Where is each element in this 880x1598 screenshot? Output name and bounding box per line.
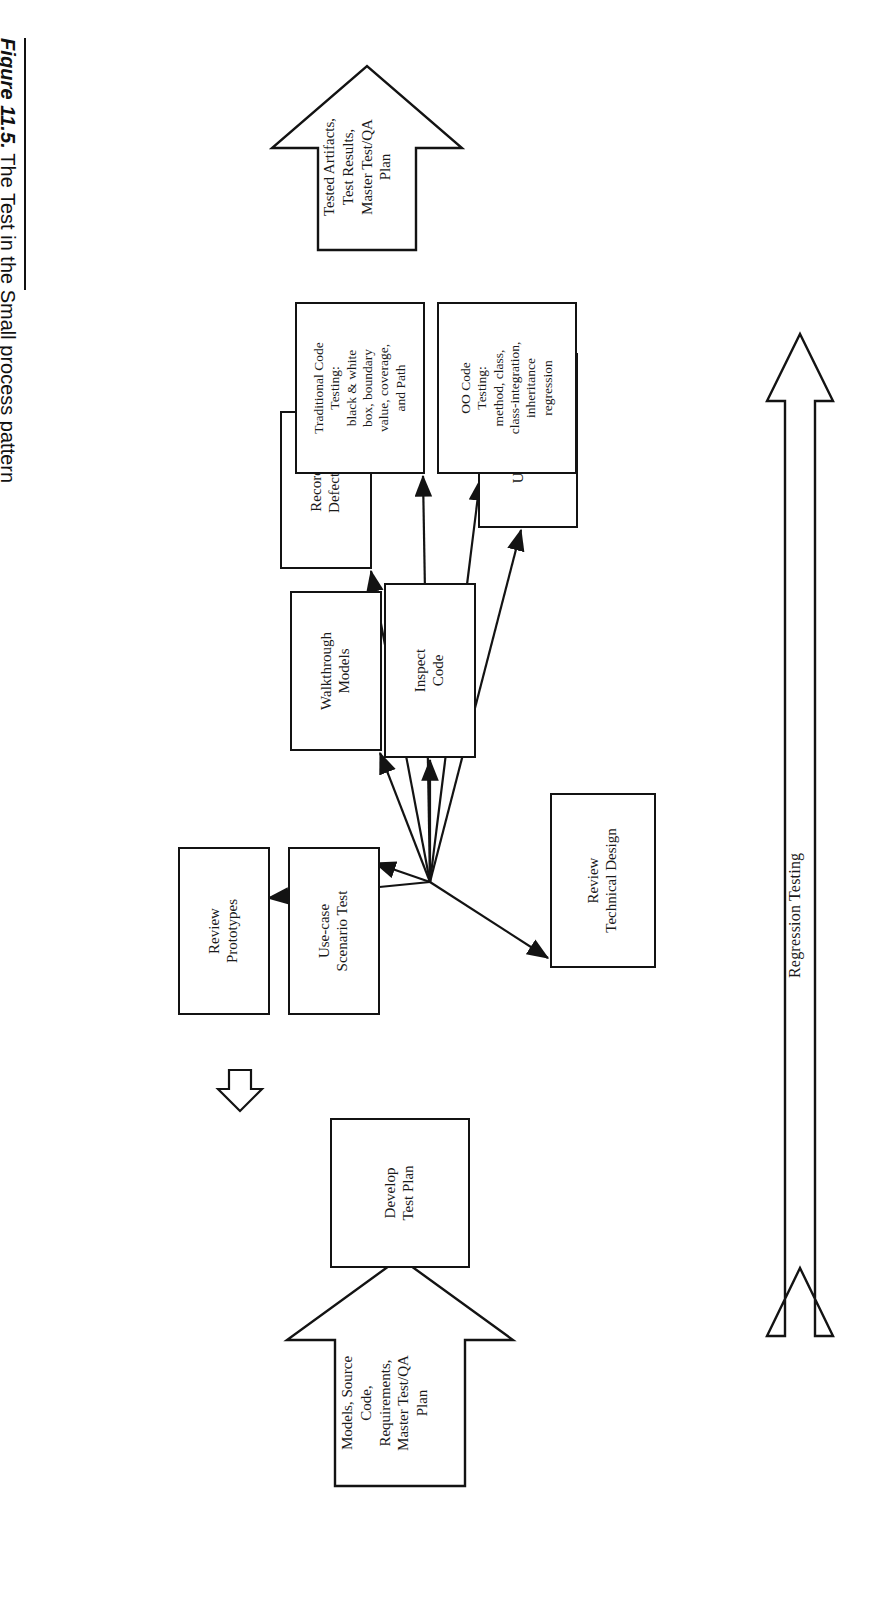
connector-layer (0, 0, 880, 1598)
node-inspect-code-label: Inspect Code (412, 649, 447, 692)
node-inspect-code[interactable]: Inspect Code (384, 583, 476, 758)
edge-hub-to-walkthrough-models (380, 753, 430, 882)
regression-testing-block-arrow-shape (767, 334, 833, 1336)
regression-testing-label: Regression Testing (786, 853, 804, 978)
node-traditional-code-testing-label: Traditional Code Testing: black & white … (311, 342, 410, 433)
node-develop-test-plan-label: Develop Test Plan (382, 1165, 417, 1220)
small-block-arrow-start (218, 1070, 262, 1111)
node-oo-code-testing-label: OO Code Testing: method, class, class-in… (458, 342, 557, 435)
node-oo-code-testing[interactable]: OO Code Testing: method, class, class-in… (437, 302, 577, 474)
caption-rule (24, 38, 26, 290)
node-review-technical-design-label: Review Technical Design (585, 828, 620, 932)
node-review-prototypes[interactable]: Review Prototypes (178, 847, 270, 1015)
node-review-prototypes-label: Review Prototypes (206, 899, 241, 963)
node-use-case-scenario-test[interactable]: Use-case Scenario Test (288, 847, 380, 1015)
node-review-technical-design[interactable]: Review Technical Design (550, 793, 656, 968)
node-develop-test-plan[interactable]: Develop Test Plan (330, 1118, 470, 1268)
figure-caption-block: Figure 11.5. The Test in the Small proce… (0, 38, 26, 483)
figure-number: Figure 11.5. (0, 38, 19, 149)
edge-hub-to-use-case-scenario-test (375, 863, 430, 882)
node-traditional-code-testing[interactable]: Traditional Code Testing: black & white … (295, 302, 425, 474)
edge-hub-to-review-technical-design (430, 882, 548, 958)
node-walkthrough-models[interactable]: Walkthrough Models (290, 591, 382, 751)
node-use-case-scenario-test-label: Use-case Scenario Test (316, 891, 351, 972)
output-block-arrow-label: Tested Artifacts, Test Results, Master T… (320, 92, 395, 242)
node-walkthrough-models-label: Walkthrough Models (318, 632, 353, 710)
input-block-arrow-label: Models, Source Code, Requirements, Maste… (338, 1330, 432, 1476)
figure-caption-text: The Test in the Small process pattern (0, 153, 19, 483)
diagram-canvas: Develop Test Plan Review Prototypes Use-… (0, 0, 880, 1598)
